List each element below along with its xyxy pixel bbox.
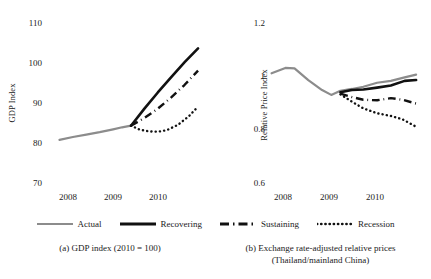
line-chart-svg-panel-b (267, 22, 423, 184)
series-line-sustaining (131, 71, 198, 126)
legend-swatch-recovering (120, 220, 156, 228)
y-tick-label: 0.6 (233, 178, 265, 188)
caption-panel-b-line1: (b) Exchange rate-adjusted relative pric… (246, 243, 396, 253)
caption-panel-a: (a) GDP index (2010 = 100) (10, 242, 210, 254)
legend-item-sustaining: Sustaining (220, 219, 299, 229)
y-tick-label: 1.2 (233, 18, 265, 28)
plot-area-panel-a (55, 22, 207, 184)
chart-panel-relative-price-index: Relative Price Index 1.2 1 0.8 0.6 2008 … (215, 0, 431, 210)
figure-root: GDP Index 110 100 90 80 70 2008 2009 201… (0, 0, 431, 279)
legend-item-recovering: Recovering (120, 219, 202, 229)
chart-panel-gdp-index: GDP Index 110 100 90 80 70 2008 2009 201… (0, 0, 216, 210)
legend-swatch-recession (317, 220, 353, 228)
plot-area-panel-b (267, 22, 423, 184)
legend-swatch-actual (37, 220, 73, 228)
legend-swatch-sustaining (220, 220, 256, 228)
x-tick-label: 2009 (309, 192, 349, 202)
y-tick-label: 110 (12, 18, 42, 28)
x-tick-label: 2009 (93, 192, 133, 202)
y-tick-label: 100 (12, 58, 42, 68)
figure-captions: (a) GDP index (2010 = 100) (b) Exchange … (0, 240, 431, 279)
caption-panel-b: (b) Exchange rate-adjusted relative pric… (218, 242, 423, 266)
y-tick-label: 80 (12, 138, 42, 148)
x-tick-label: 2008 (263, 192, 303, 202)
series-line-actual (59, 126, 131, 140)
legend-label-sustaining: Sustaining (261, 219, 299, 229)
y-tick-label: 0.8 (233, 124, 265, 134)
series-line-recovering (131, 48, 198, 125)
y-tick-label: 1 (233, 71, 265, 81)
chart-legend: Actual Recovering Sustaining Recession (0, 216, 431, 232)
line-chart-svg-panel-a (55, 22, 207, 184)
legend-item-recession: Recession (317, 219, 395, 229)
x-tick-label: 2010 (355, 192, 395, 202)
legend-label-recession: Recession (358, 219, 395, 229)
y-tick-label: 70 (12, 178, 42, 188)
x-tick-label: 2008 (48, 192, 88, 202)
legend-label-actual: Actual (78, 219, 102, 229)
legend-item-actual: Actual (37, 219, 102, 229)
x-tick-label: 2010 (138, 192, 178, 202)
legend-label-recovering: Recovering (161, 219, 202, 229)
y-tick-label: 90 (12, 98, 42, 108)
caption-panel-b-line2: (Thailand/mainland China) (218, 254, 423, 266)
